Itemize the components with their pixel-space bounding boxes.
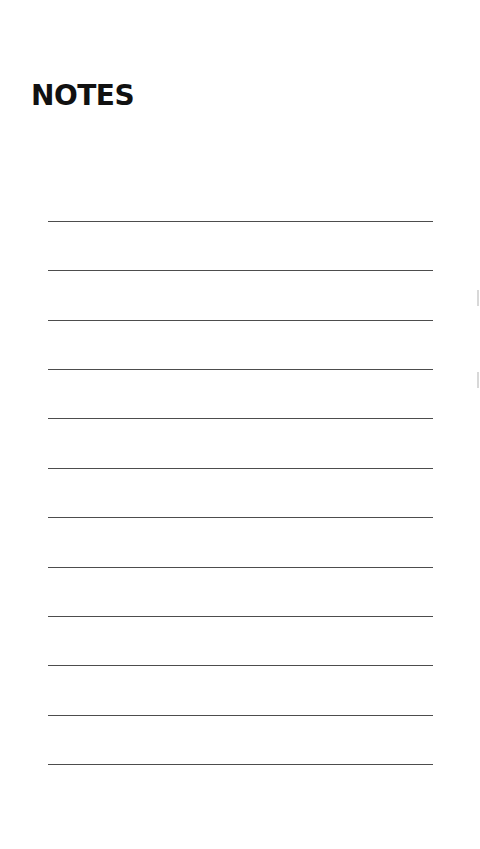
writing-line (48, 517, 433, 518)
writing-line (48, 221, 433, 222)
scan-artifact (477, 290, 479, 306)
writing-line (48, 320, 433, 321)
writing-line (48, 270, 433, 271)
writing-line (48, 468, 433, 469)
ruled-lines (48, 0, 433, 849)
writing-line (48, 616, 433, 617)
writing-line (48, 715, 433, 716)
writing-line (48, 567, 433, 568)
writing-line (48, 369, 433, 370)
scan-artifact (477, 372, 479, 388)
notes-page: NOTES (0, 0, 480, 849)
writing-line (48, 764, 433, 765)
writing-line (48, 418, 433, 419)
writing-line (48, 665, 433, 666)
